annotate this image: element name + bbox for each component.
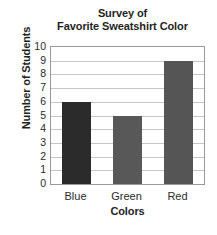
chart-title-line-2: Favorite Sweatshirt Color	[28, 20, 217, 33]
x-tick-label-blue: Blue	[50, 189, 101, 203]
x-axis-label: Colors	[50, 205, 205, 217]
y-axis-tick-labels: 109876543210	[26, 41, 46, 186]
y-tick-label: 4	[26, 123, 46, 133]
y-tick-label: 0	[26, 178, 46, 188]
bar-blue	[62, 102, 90, 184]
bar-green	[113, 116, 141, 185]
x-tick-label-red: Red	[152, 189, 203, 203]
y-tick-label: 6	[26, 96, 46, 106]
y-tick-label: 5	[26, 110, 46, 120]
y-tick-label: 10	[26, 41, 46, 51]
plot-area	[50, 46, 205, 185]
y-tick-label: 1	[26, 164, 46, 174]
bar-series	[51, 47, 204, 184]
bar-chart-figure: Survey of Favorite Sweatshirt Color Numb…	[0, 0, 217, 235]
y-tick-label: 7	[26, 82, 46, 92]
chart-title-line-1: Survey of	[28, 7, 217, 20]
x-tick-label-green: Green	[101, 189, 152, 203]
y-tick-label: 9	[26, 55, 46, 65]
x-axis-tick-labels: BlueGreenRed	[50, 189, 205, 205]
y-tick-label: 3	[26, 137, 46, 147]
chart-title: Survey of Favorite Sweatshirt Color	[28, 7, 217, 33]
y-tick-label: 2	[26, 151, 46, 161]
y-tick-label: 8	[26, 68, 46, 78]
bar-red	[164, 61, 192, 184]
